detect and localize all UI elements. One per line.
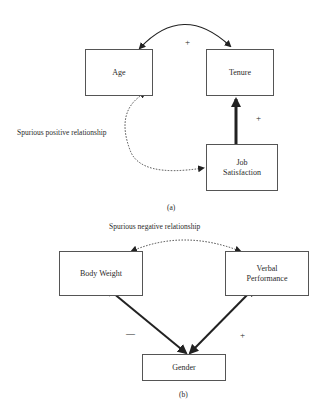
- gender-verbal-arrow: [190, 288, 254, 353]
- node-verbal-performance-label: Verbal Performance: [247, 264, 288, 283]
- spurious-negative-arrow: [132, 240, 240, 251]
- job-tenure-sign: +: [256, 113, 261, 123]
- panel-b-caption: (b): [179, 390, 188, 399]
- gender-verbal-sign: +: [240, 330, 245, 340]
- node-gender: Gender: [142, 354, 226, 381]
- age-tenure-sign: +: [185, 37, 190, 47]
- spurious-positive-label: Spurious positive relationship: [17, 128, 107, 137]
- node-body-weight: Body Weight: [59, 251, 143, 296]
- node-job-satisfaction-label: Job Satisfaction: [223, 158, 261, 177]
- spurious-negative-label: Spurious negative relationship: [109, 222, 200, 231]
- spurious-positive-arrow: [125, 93, 203, 171]
- node-body-weight-label: Body Weight: [80, 269, 122, 279]
- node-age: Age: [85, 49, 153, 96]
- gender-body-sign: —: [126, 328, 135, 338]
- node-age-label: Age: [112, 68, 125, 78]
- gender-body-arrow: [107, 288, 186, 353]
- node-tenure-label: Tenure: [229, 68, 251, 78]
- node-tenure: Tenure: [206, 49, 274, 96]
- node-gender-label: Gender: [172, 363, 196, 373]
- node-job-satisfaction: Job Satisfaction: [206, 144, 278, 191]
- node-verbal-performance: Verbal Performance: [225, 251, 309, 296]
- panel-a-caption: (a): [167, 203, 175, 212]
